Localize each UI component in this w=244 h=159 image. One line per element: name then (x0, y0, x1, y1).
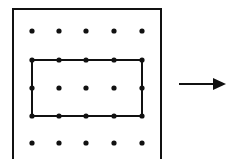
peg-dot (56, 140, 61, 145)
peg-dot (111, 85, 116, 90)
peg-dot (29, 140, 34, 145)
peg-dot (29, 28, 34, 33)
arrow-head (213, 78, 226, 90)
peg-dot (139, 140, 144, 145)
peg-dot (83, 85, 88, 90)
geoboard-diagram (0, 0, 244, 159)
peg-dot (83, 140, 88, 145)
peg-dot (111, 28, 116, 33)
peg-dot (56, 28, 61, 33)
right-arrow-icon (179, 78, 226, 90)
peg-dot (111, 140, 116, 145)
peg-dot (139, 28, 144, 33)
peg-dot (56, 85, 61, 90)
peg-grid (29, 28, 144, 145)
peg-dot (83, 28, 88, 33)
